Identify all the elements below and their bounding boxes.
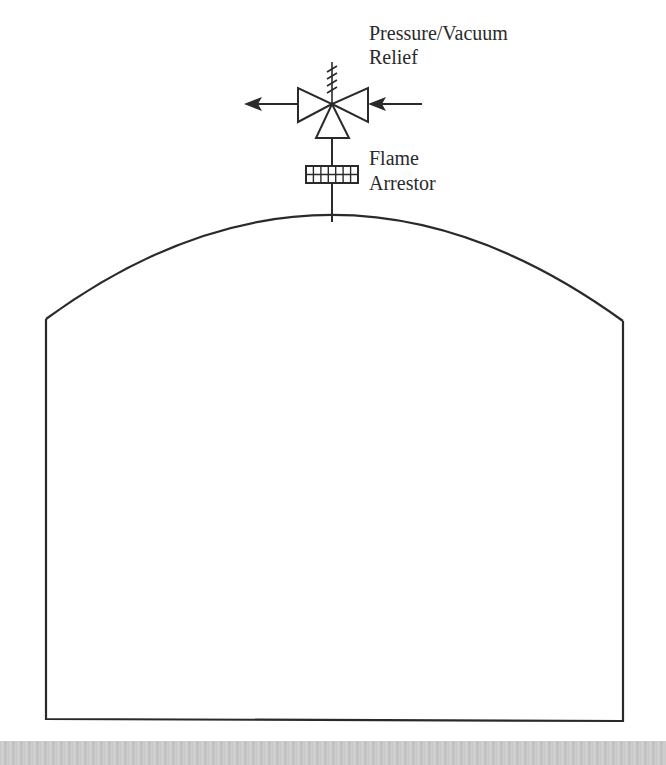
- scan-noise-band: [0, 741, 666, 765]
- tank-dome-roof: [46, 215, 623, 321]
- tank-body: [46, 319, 623, 721]
- relief-label-line2: Relief: [369, 45, 418, 69]
- arrestor-label-line2: Arrestor: [369, 171, 436, 195]
- flame-arrestor: [306, 166, 358, 183]
- spring-icon: [327, 62, 337, 104]
- outflow-arrow-icon: [244, 97, 298, 111]
- arrestor-label-line1: Flame: [369, 146, 419, 170]
- relief-valve: [298, 88, 368, 138]
- tank-diagram: [0, 0, 666, 765]
- relief-label-line1: Pressure/Vacuum: [369, 21, 508, 45]
- inflow-arrow-icon: [368, 97, 422, 111]
